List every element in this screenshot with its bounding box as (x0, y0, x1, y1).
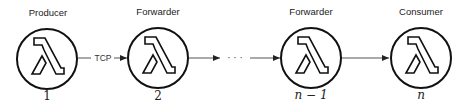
node-circle (17, 29, 77, 89)
node-index-label: n (417, 88, 425, 102)
lambda-icon (406, 37, 438, 73)
node-circle (128, 28, 188, 88)
edge-tcp: TCP (78, 53, 127, 63)
pipeline-diagram: Producer 1 TCP Forwarder 2 · · · Forward… (0, 0, 469, 106)
node-index-label: n − 1 (294, 88, 327, 102)
lambda-icon (296, 37, 328, 73)
node-role-label: Producer (29, 7, 68, 18)
node-forwarder-n-minus-1: Forwarder n − 1 (281, 6, 341, 102)
node-producer: Producer 1 (17, 7, 77, 103)
ellipsis: · · · (227, 52, 243, 63)
lambda-icon (32, 38, 64, 74)
node-role-label: Consumer (399, 6, 443, 17)
node-index-label: 1 (43, 89, 51, 103)
lambda-icon (143, 37, 175, 73)
node-role-label: Forwarder (289, 6, 332, 17)
edge-label-tcp: TCP (95, 53, 112, 63)
node-consumer: Consumer n (391, 6, 451, 102)
node-index-label: 2 (154, 89, 162, 103)
node-role-label: Forwarder (136, 6, 179, 17)
node-circle (281, 28, 341, 88)
node-forwarder-2: Forwarder 2 (128, 6, 188, 103)
node-circle (391, 28, 451, 88)
